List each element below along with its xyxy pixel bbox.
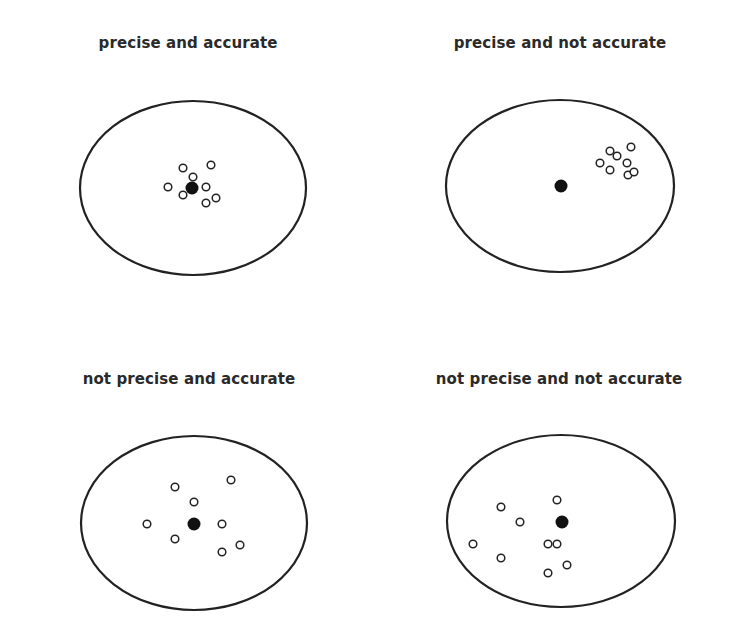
- shot-marker: [516, 518, 524, 526]
- panel-title-not-precise-not-accurate: not precise and not accurate: [436, 370, 682, 388]
- diagram-canvas: [0, 0, 730, 640]
- precision-accuracy-diagram: precise and accurate precise and not acc…: [0, 0, 730, 640]
- shot-marker: [207, 161, 215, 169]
- shot-marker: [202, 199, 210, 207]
- shot-marker: [179, 164, 187, 172]
- panel-title-precise-not-accurate: precise and not accurate: [454, 34, 667, 52]
- shot-marker: [143, 520, 151, 528]
- shot-marker: [544, 569, 552, 577]
- shot-marker: [202, 183, 210, 191]
- shot-marker: [212, 194, 220, 202]
- target-panel-precise-not-accurate: [446, 100, 674, 272]
- shot-marker: [630, 168, 638, 176]
- shot-marker: [190, 498, 198, 506]
- shot-marker: [613, 152, 621, 160]
- shot-marker: [553, 496, 561, 504]
- bullseye-dot: [555, 180, 568, 193]
- shot-marker: [218, 520, 226, 528]
- shot-marker: [227, 476, 235, 484]
- shot-marker: [544, 540, 552, 548]
- target-panel-not-precise-accurate: [81, 436, 307, 610]
- shot-marker: [623, 159, 631, 167]
- shot-marker: [627, 143, 635, 151]
- shot-marker: [606, 147, 614, 155]
- shot-marker: [606, 166, 614, 174]
- shot-marker: [497, 503, 505, 511]
- target-panel-precise-accurate: [80, 101, 306, 275]
- shot-marker: [218, 548, 226, 556]
- shot-marker: [236, 541, 244, 549]
- target-panel-not-precise-not-accurate: [447, 435, 675, 607]
- bullseye-dot: [186, 182, 199, 195]
- shot-marker: [497, 554, 505, 562]
- shot-marker: [553, 540, 561, 548]
- shot-marker: [563, 561, 571, 569]
- shot-marker: [164, 183, 172, 191]
- shot-marker: [596, 159, 604, 167]
- panel-title-precise-accurate: precise and accurate: [99, 34, 278, 52]
- bullseye-dot: [556, 516, 569, 529]
- bullseye-dot: [188, 518, 201, 531]
- shot-marker: [469, 540, 477, 548]
- shot-marker: [189, 173, 197, 181]
- shot-marker: [171, 483, 179, 491]
- shot-marker: [171, 535, 179, 543]
- panel-title-not-precise-accurate: not precise and accurate: [83, 370, 296, 388]
- shot-marker: [179, 191, 187, 199]
